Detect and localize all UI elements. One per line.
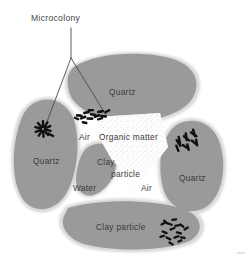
clay-bottom-label: Clay particle xyxy=(96,223,146,233)
soil-microstructure-figure: Microcolony Quartz Quartz Quartz Organic… xyxy=(0,0,245,269)
water-label: Water xyxy=(73,184,96,194)
quartz-right-label: Quartz xyxy=(179,174,206,184)
quartz-top-label: Quartz xyxy=(109,88,136,98)
clay-center-label-line1: Clay xyxy=(97,158,115,168)
clay-center-label-line2: particle xyxy=(111,170,140,180)
microcolony-label: Microcolony xyxy=(31,14,80,24)
air-right-label: Air xyxy=(141,184,152,194)
quartz-left-label: Quartz xyxy=(33,157,60,167)
air-left-label: Air xyxy=(79,133,90,143)
page-edge-mark xyxy=(237,252,245,254)
organic-matter-label: Organic matter xyxy=(99,133,158,143)
